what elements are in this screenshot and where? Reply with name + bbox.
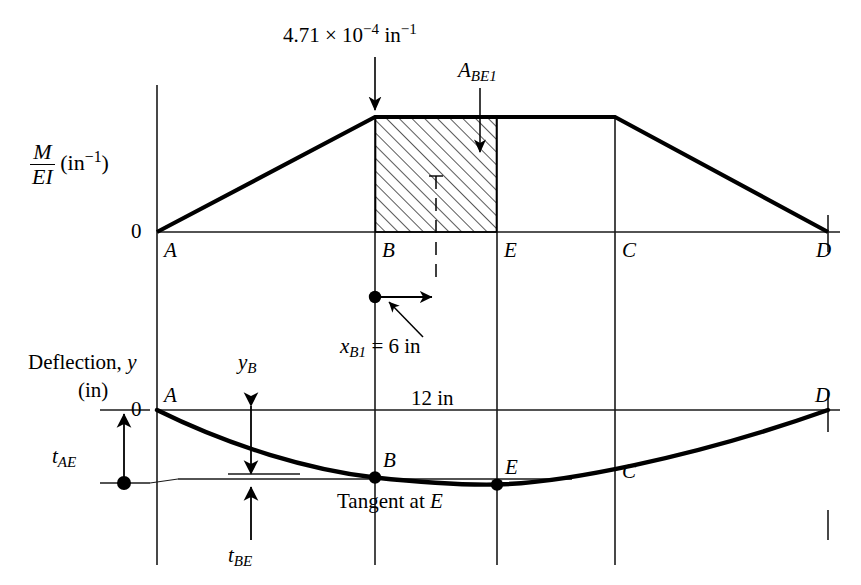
station-label-A-top: A bbox=[164, 240, 177, 261]
deflection-point-B-dot bbox=[369, 471, 381, 483]
hatched-area-abe1 bbox=[376, 118, 497, 233]
mei-denominator: EI bbox=[30, 165, 55, 190]
station-label-A-bottom: A bbox=[164, 385, 177, 406]
station-label-E-top: E bbox=[504, 240, 517, 261]
station-label-D-bottom: D bbox=[815, 385, 830, 406]
station-label-B-bottom: B bbox=[383, 450, 396, 471]
deflection-zero-label: 0 bbox=[131, 399, 142, 420]
moment-area-figure: 4.71 × 10−4 in−1 ABE1 M EI (in−1) 0 A B … bbox=[0, 0, 861, 585]
station-label-B-top: B bbox=[382, 240, 395, 261]
station-label-C-bottom: C bbox=[622, 461, 636, 482]
deflection-axis-label-line1: Deflection, y bbox=[28, 352, 136, 373]
mei-zero-label: 0 bbox=[131, 221, 142, 242]
mei-numerator: M bbox=[30, 140, 55, 165]
station-label-C-top: C bbox=[622, 240, 636, 261]
tbe-label: tBE bbox=[228, 545, 252, 569]
yb-label: yB bbox=[238, 352, 257, 376]
peak-value-label: 4.71 × 10−4 in−1 bbox=[283, 22, 417, 46]
area-label-abe1: ABE1 bbox=[458, 60, 497, 84]
station-label-E-bottom: E bbox=[505, 457, 518, 478]
tangent-note-label: Tangent at E bbox=[337, 491, 443, 512]
deflection-axis-label-line2: (in) bbox=[78, 380, 108, 401]
tae-label: tAE bbox=[52, 446, 76, 470]
span-be-label: 12 in bbox=[411, 388, 454, 409]
deflection-point-E-dot bbox=[491, 478, 503, 490]
xb1-label: xB1 = 6 in bbox=[340, 336, 421, 360]
mei-axis-label: M EI (in−1) bbox=[30, 140, 109, 189]
xb1-label-leader bbox=[389, 302, 423, 337]
station-label-D-top: D bbox=[816, 240, 831, 261]
